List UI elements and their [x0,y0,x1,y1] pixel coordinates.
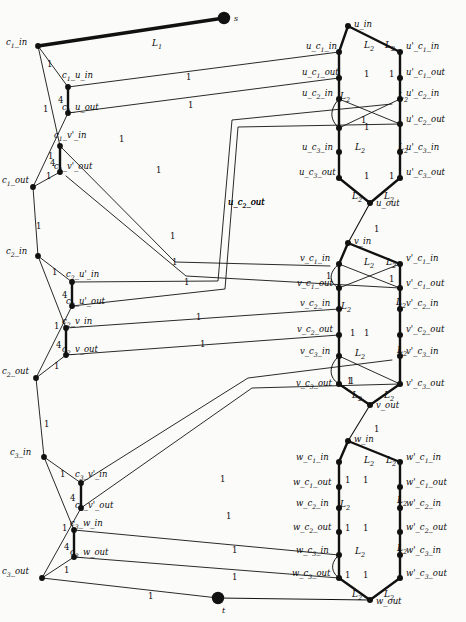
node-label-v'_c3_in: v'_c3_in [406,347,439,358]
node-w_c2_out[interactable] [336,529,342,535]
node-label-w_c1_in: w_c1_in [296,453,329,464]
node-c3_v'_in[interactable] [78,480,84,486]
node-w_c3_in[interactable] [336,552,342,558]
edge-capacity-label: 1 [196,313,201,322]
node-label-u'_c2_out: u'_c2_out [406,115,445,126]
node-label-c1_in: c1_in [6,38,27,49]
node-label-u_c3_out: u_c3_out [299,168,336,179]
node-label-v_c2_in: v_c2_in [300,299,330,310]
node-v_c3_in[interactable] [336,353,342,359]
node-label-u_c1_in: u_c1_in [306,42,337,53]
node-w'_c2_out[interactable] [397,529,403,535]
node-label-u'_c1_out: u'_c1_out [406,68,445,79]
node-label-w_in: w_in [354,435,374,444]
node-c1_v'_in[interactable] [57,143,63,149]
node-u'_c1_in[interactable] [397,49,403,55]
edge-capacity-label-L: L2 [340,92,350,103]
node-label-v_c3_in: v_c3_in [300,347,330,358]
node-w'_c1_out[interactable] [397,484,403,490]
node-label-v_in: v_in [354,237,371,246]
node-label-u'_c1_in: u'_c1_in [406,42,439,53]
node-u_c2_outN[interactable] [336,125,342,131]
node-u'_c3_out[interactable] [397,175,403,181]
edge-capacity-label-L: L2 [352,590,362,601]
edge-capacity-label: 1 [44,420,49,429]
node-c1_u_in[interactable] [65,84,71,90]
node-c1_out[interactable] [30,184,36,190]
edge-capacity-label: 1 [188,101,193,110]
node-v_c2_out[interactable] [336,332,342,338]
node-c2_out[interactable] [33,375,39,381]
edge-capacity-label: 1 [374,225,379,234]
node-w_c3_out[interactable] [336,575,342,581]
node-c2_in[interactable] [35,253,41,259]
edge-vin-vc1in [339,243,348,264]
node-label-w_c3_out: w_c3_out [292,569,331,580]
node-label-u'_c3_out: u'_c3_out [406,168,445,179]
node-u'_c2_out[interactable] [397,121,403,127]
node-v_c1_out[interactable] [336,285,342,291]
node-v_c1_in[interactable] [336,261,342,267]
edge-capacity-label-L: L2 [341,302,351,313]
node-u_c3_out[interactable] [336,175,342,181]
node-v'_c3_out[interactable] [397,381,403,387]
edge-capacity-label-L: L2 [364,41,374,52]
floating-label: u_c2_out [228,198,265,209]
terminal-label-s: s [234,14,238,23]
node-label-w'_c1_in: w'_c1_in [406,453,441,464]
edge-capacity-label: 1 [350,329,355,338]
edge-capacity-label-L: L2 [396,298,406,309]
edge-win-wc1in [339,441,348,462]
node-label-c1_u_out: c1_u_out [62,103,99,114]
node-u'_c1_out[interactable] [397,75,403,81]
edge-capacity-label: 1 [54,322,59,331]
edge-capacity-label-L: L2 [386,258,396,269]
node-u_c3_in[interactable] [336,149,342,155]
node-t[interactable] [212,592,224,604]
node-v'_c2_out[interactable] [397,332,403,338]
edge-v-c3out-c3v-out [81,384,400,508]
edge-capacity-label: 1 [345,571,350,580]
edge-capacity-label-L: L2 [384,590,394,601]
node-v_out[interactable] [367,402,373,408]
node-label-u_in: u_in [354,20,372,29]
node-w_c1_in[interactable] [336,459,342,465]
edge-capacity-label-L: L2 [340,500,350,511]
node-label-c2_in: c2_in [6,247,27,258]
edge-capacity-label: 1 [389,172,394,181]
node-w'_c1_in[interactable] [397,459,403,465]
node-w'_c3_out[interactable] [397,575,403,581]
node-w_out[interactable] [367,597,373,603]
node-v_in[interactable] [345,240,351,246]
edge-c2vout-c2out [36,355,66,378]
edge-capacity-label: 1 [184,278,189,287]
node-c3_in[interactable] [41,454,47,460]
node-c3_out[interactable] [39,575,45,581]
node-w_in[interactable] [345,438,351,444]
node-v'_c1_out[interactable] [397,285,403,291]
node-w_c1_out[interactable] [336,484,342,490]
node-label-u_c1_out: u_c1_out [302,68,339,79]
node-label-v_c2_out: v_c2_out [297,325,333,336]
node-label-c3_v'_out: c3_v'_out [75,501,113,512]
node-v_c3_out[interactable] [336,381,342,387]
node-v'_c1_in[interactable] [397,261,403,267]
edge-capacity-label: 1 [226,512,231,521]
node-label-c3_w_out: c3_w_out [70,548,109,559]
node-u_in[interactable] [345,23,351,29]
node-label-c1_out: c1_out [2,176,29,187]
edge-capacity-label-L: L2 [355,349,365,360]
edge-capacity-label: 1 [36,222,41,231]
node-label-c3_w_in: c3_w_in [70,519,103,530]
edge-capacity-label: 1 [363,524,368,533]
edge-capacity-label: 1 [119,135,124,144]
edge-capacity-label-L: L2 [364,456,374,467]
node-label-c1_u_in: c1_u_in [62,71,93,82]
node-c1_in[interactable] [35,43,41,49]
node-u_out[interactable] [367,200,373,206]
node-s[interactable] [218,12,230,24]
edge-capacity-label: 1 [46,172,51,181]
edge-wout-t [218,598,370,600]
edge-c1uin-uc1in [68,52,339,87]
node-label-v'_c1_out: v'_c1_out [406,279,444,290]
